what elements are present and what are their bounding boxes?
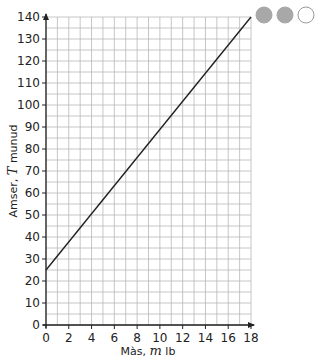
y-tick-label: 40 — [25, 230, 40, 244]
x-tick-label: 8 — [133, 331, 141, 345]
x-tick-labels: 024681012141618 — [42, 325, 258, 345]
difficulty-indicator — [256, 7, 314, 23]
y-tick-label: 50 — [25, 208, 40, 222]
y-tick-labels: 0102030405060708090100110120130140 — [17, 10, 46, 332]
x-axis-label: Màs, m lb — [121, 343, 176, 358]
x-tick-label: 18 — [243, 331, 258, 345]
y-tick-label: 30 — [25, 252, 40, 266]
grid — [46, 17, 251, 325]
x-tick-label: 2 — [65, 331, 73, 345]
y-tick-label: 130 — [17, 32, 40, 46]
x-tick-label: 12 — [175, 331, 190, 345]
y-tick-label: 100 — [17, 98, 40, 112]
y-tick-label: 10 — [25, 296, 40, 310]
filled-circle-icon — [277, 7, 293, 23]
x-tick-label: 4 — [88, 331, 96, 345]
y-tick-label: 60 — [25, 186, 40, 200]
y-tick-label: 80 — [25, 142, 40, 156]
y-axis-label: Amser, T munud — [5, 124, 20, 217]
y-tick-label: 20 — [25, 274, 40, 288]
line-chart: 0102030405060708090100110120130140 02468… — [0, 0, 317, 361]
x-tick-label: 6 — [111, 331, 119, 345]
y-tick-label: 70 — [25, 164, 40, 178]
y-tick-label: 0 — [32, 318, 40, 332]
x-tick-label: 14 — [198, 331, 213, 345]
y-tick-label: 140 — [17, 10, 40, 24]
x-tick-label: 0 — [42, 331, 50, 345]
y-tick-label: 120 — [17, 54, 40, 68]
y-tick-label: 110 — [17, 76, 40, 90]
x-tick-label: 16 — [221, 331, 236, 345]
y-tick-label: 90 — [25, 120, 40, 134]
filled-circle-icon — [256, 7, 272, 23]
empty-circle-icon — [298, 7, 314, 23]
